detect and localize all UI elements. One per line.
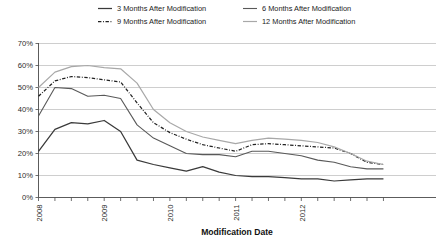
chart-legend: 3 Months After Modification6 Months Afte… <box>98 4 355 26</box>
series-line-3 <box>39 77 384 165</box>
series-line-1 <box>39 121 384 182</box>
x-axis-title: Modification Date <box>201 227 273 237</box>
y-tick-label: 40% <box>18 105 33 114</box>
x-axis-year-labels: 20082009201020112012 <box>35 205 307 222</box>
y-tick-label: 10% <box>18 171 33 180</box>
legend-label-2: 6 Months After Modification <box>262 4 351 13</box>
series-line-2 <box>39 88 384 169</box>
chart-container: 3 Months After Modification6 Months Afte… <box>0 0 441 243</box>
y-tick-label: 0% <box>22 193 33 202</box>
data-series <box>39 66 384 182</box>
line-chart: 3 Months After Modification6 Months Afte… <box>0 0 441 243</box>
y-tick-label: 60% <box>18 61 33 70</box>
x-tick-label-2012: 2012 <box>298 205 307 222</box>
x-tick-label-2008: 2008 <box>35 205 44 222</box>
x-axis-ticks <box>39 198 384 202</box>
y-tick-label: 20% <box>18 149 33 158</box>
y-tick-label: 70% <box>18 39 33 48</box>
legend-label-3: 9 Months After Modification <box>117 17 206 26</box>
y-axis-ticks: 0%10%20%30%40%50%60%70% <box>18 39 39 202</box>
y-tick-label: 30% <box>18 127 33 136</box>
x-tick-label-2011: 2011 <box>232 205 241 221</box>
legend-label-1: 3 Months After Modification <box>117 4 206 13</box>
y-tick-label: 50% <box>18 83 33 92</box>
series-line-4 <box>39 66 384 165</box>
x-tick-label-2009: 2009 <box>100 205 109 222</box>
x-tick-label-2010: 2010 <box>166 205 175 222</box>
legend-label-4: 12 Months After Modification <box>262 17 355 26</box>
